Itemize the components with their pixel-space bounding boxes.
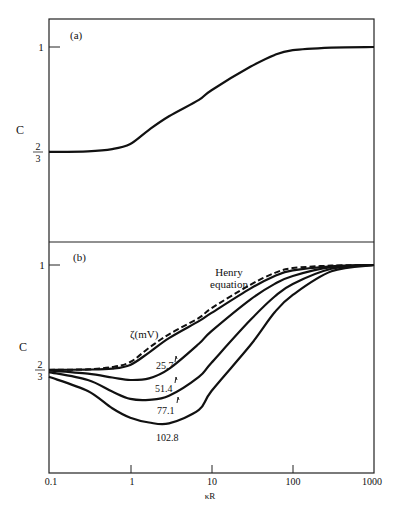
zeta-label: ζ(mV) [130, 328, 159, 341]
arrow-25-7 [175, 356, 177, 362]
figure: (a) 1 C 2 3 (b) 1 C 2 3 Henry equation ζ… [0, 0, 400, 513]
xtick-label-1000: 1000 [362, 476, 382, 487]
arrow-51-4 [175, 377, 177, 383]
panel-a-ytick-23-num: 2 [36, 141, 41, 152]
panel-b-ytick-1-label: 1 [39, 259, 45, 271]
curve-label-25-7: 25.7 [156, 360, 174, 371]
panel-a-ytick-1-label: 1 [38, 41, 44, 53]
curve-label-51-4: 51.4 [155, 383, 173, 394]
henry-label-line1: Henry [215, 266, 243, 278]
panel-a-label: (a) [70, 29, 83, 42]
curve-label-102-8: 102.8 [156, 432, 179, 443]
panel-b-ytick-23-den: 3 [38, 371, 43, 382]
panel-a-ytick-23-den: 3 [36, 153, 41, 164]
curve-c-r- [49, 47, 374, 152]
panel-a-curves [49, 47, 374, 152]
xtick-label-0-1: 0.1 [45, 476, 58, 487]
xtick-label-10: 10 [207, 476, 217, 487]
panel-b-label: (b) [73, 251, 86, 264]
xtick-label-1: 1 [130, 476, 135, 487]
x-axis [131, 465, 293, 473]
x-axis-label: κR [205, 491, 216, 501]
plot-frame [49, 19, 374, 473]
xtick-label-100: 100 [286, 476, 301, 487]
panel-b-ylabel: C [19, 340, 27, 354]
henry-label-line2: equation [210, 278, 248, 290]
curve-label-77-1: 77.1 [157, 405, 175, 416]
panel-a-ylabel: C [16, 123, 24, 137]
panel-b-ytick-23-num: 2 [38, 359, 43, 370]
arrow-77-1 [177, 397, 179, 403]
